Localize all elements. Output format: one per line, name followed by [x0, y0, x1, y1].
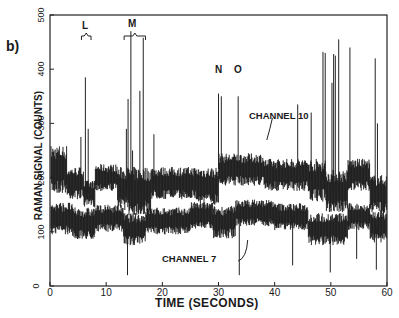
annotation-L: L — [82, 20, 88, 31]
x-axis-label: TIME (SECONDS) — [155, 296, 259, 310]
x-tick-60: 60 — [381, 287, 392, 298]
channel-10-label: CHANNEL 10 — [249, 110, 308, 121]
y-tick-100: 100 — [36, 224, 46, 239]
x-tick-30: 30 — [213, 287, 224, 298]
y-tick-300: 300 — [36, 116, 46, 131]
annotation-M: M — [128, 18, 136, 29]
y-tick-500: 500 — [36, 7, 46, 22]
y-tick-400: 400 — [36, 62, 46, 77]
x-tick-10: 10 — [101, 287, 112, 298]
x-tick-20: 20 — [157, 287, 168, 298]
raman-signal-chart — [0, 0, 399, 318]
annotation-O: O — [234, 64, 242, 75]
y-axis-label: RAMAN SIGNAL (COUNTS) — [33, 86, 44, 226]
series-channel-7 — [51, 200, 386, 276]
y-tick-0: 0 — [31, 283, 41, 288]
panel-label: b) — [6, 38, 19, 54]
x-tick-50: 50 — [325, 287, 336, 298]
annotation-N: N — [215, 64, 222, 75]
x-tick-0: 0 — [47, 287, 53, 298]
x-tick-40: 40 — [269, 287, 280, 298]
series-channel-10 — [51, 31, 386, 215]
channel-7-label: CHANNEL 7 — [162, 253, 216, 264]
y-tick-200: 200 — [36, 170, 46, 185]
